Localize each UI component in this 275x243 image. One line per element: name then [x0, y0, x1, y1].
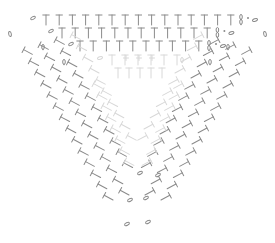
hdc-stitch-icon — [178, 159, 190, 169]
hdc-stitch-icon — [75, 109, 87, 119]
chain-stitch-icon — [97, 56, 103, 60]
hdc-stitch-icon — [22, 47, 34, 57]
hdc-stitch-icon — [181, 120, 193, 130]
hdc-stitch-icon — [143, 187, 155, 197]
chain-stitch-icon — [209, 59, 212, 64]
hdc-stitch-icon — [173, 65, 185, 75]
hdc-stitch-icon — [175, 15, 181, 25]
hdc-stitch-icon — [47, 92, 59, 102]
hdc-stitch-icon — [162, 154, 174, 164]
hdc-stitch-icon — [240, 47, 252, 57]
hdc-stitch-icon — [103, 41, 109, 51]
hdc-stitch-icon — [172, 170, 184, 180]
hdc-stitch-icon — [126, 133, 138, 143]
hdc-stitch-icon — [124, 158, 136, 168]
hdc-stitch-icon — [73, 70, 85, 80]
hdc-stitch-icon — [199, 87, 211, 97]
hdc-stitch-icon — [59, 114, 71, 124]
hdc-stitch-icon — [168, 92, 180, 102]
hdc-stitch-icon — [209, 103, 221, 113]
hdc-stitch-icon — [84, 159, 96, 169]
hdc-stitch-icon — [76, 43, 88, 53]
hdc-stitch-icon — [168, 143, 180, 153]
hdc-stitch-icon — [191, 28, 197, 38]
chain-stitch-icon — [145, 220, 151, 225]
hdc-stitch-icon — [143, 41, 149, 51]
chain-stitch-icon — [252, 18, 258, 22]
hdc-stitch-icon — [50, 64, 62, 74]
chain-stitch-icon — [137, 171, 143, 176]
hdc-stitch-icon — [113, 110, 125, 120]
hdc-stitch-icon — [90, 41, 96, 51]
hdc-stitch-icon — [125, 28, 131, 38]
single-crochet-icon — [137, 56, 142, 61]
hdc-stitch-icon — [65, 125, 77, 135]
hdc-stitch-icon — [148, 68, 154, 78]
hdc-stitch-icon — [60, 48, 72, 58]
hdc-stitch-icon — [162, 15, 168, 25]
chain-stitch-icon — [8, 31, 11, 37]
slip-stitch-icon — [247, 17, 249, 19]
hdc-stitch-icon — [166, 181, 178, 191]
hdc-stitch-icon — [116, 41, 122, 51]
hdc-stitch-icon — [66, 59, 78, 69]
chain-stitch-icon — [143, 196, 149, 201]
hdc-stitch-icon — [100, 154, 112, 164]
hdc-stitch-icon — [28, 58, 40, 68]
hdc-stitch-icon — [204, 28, 210, 38]
hdc-stitch-icon — [201, 15, 207, 25]
hdc-stitch-icon — [151, 28, 157, 38]
hdc-stitch-icon — [81, 120, 93, 130]
hdc-stitch-icon — [205, 75, 217, 85]
hdc-stitch-icon — [115, 68, 121, 78]
hdc-stitch-icon — [57, 75, 69, 85]
hdc-stitch-icon — [183, 82, 195, 92]
hdc-stitch-icon — [221, 80, 233, 90]
hdc-stitch-icon — [159, 192, 171, 202]
hdc-stitch-icon — [98, 28, 104, 38]
hdc-stitch-icon — [69, 15, 75, 25]
hdc-stitch-icon — [156, 41, 162, 51]
hdc-stitch-icon — [96, 181, 108, 191]
hdc-stitch-icon — [212, 64, 224, 74]
hdc-stitch-icon — [88, 131, 100, 141]
hdc-stitch-icon — [177, 93, 189, 103]
hdc-stitch-icon — [126, 68, 132, 78]
hdc-stitch-icon — [130, 41, 136, 51]
hdc-stitch-icon — [167, 77, 179, 87]
hdc-stitch-icon — [82, 15, 88, 25]
hdc-stitch-icon — [178, 28, 184, 38]
hdc-stitch-icon — [148, 55, 154, 65]
hdc-stitch-icon — [78, 148, 90, 158]
chain-stitch-icon — [220, 44, 226, 48]
hdc-stitch-icon — [155, 99, 167, 109]
slip-stitch-icon — [215, 43, 217, 45]
chain-stitch-icon — [127, 198, 133, 203]
chain-stitch-icon — [208, 45, 211, 50]
hdc-stitch-icon — [184, 148, 196, 158]
chain-stitch-icon — [124, 222, 130, 227]
chain-stitch-icon — [229, 31, 235, 35]
hdc-stitch-icon — [182, 41, 188, 51]
slip-stitch-icon — [223, 30, 225, 32]
crochet-chart — [0, 0, 275, 243]
chain-stitch-icon — [240, 19, 243, 24]
hdc-stitch-icon — [214, 15, 220, 25]
hdc-stitch-icon — [197, 125, 209, 135]
hdc-stitch-icon — [97, 92, 109, 102]
hdc-stitch-icon — [115, 136, 127, 146]
hdc-stitch-icon — [112, 28, 118, 38]
hdc-stitch-icon — [187, 109, 199, 119]
hdc-stitch-icon — [106, 165, 118, 175]
hdc-stitch-icon — [164, 28, 170, 38]
hdc-stitch-icon — [137, 68, 143, 78]
hdc-stitch-icon — [228, 69, 240, 79]
hdc-stitch-icon — [138, 28, 144, 38]
single-crochet-icon — [150, 56, 155, 61]
hdc-stitch-icon — [85, 28, 91, 38]
hdc-stitch-icon — [96, 15, 102, 25]
hdc-stitch-icon — [107, 99, 119, 109]
hdc-stitch-icon — [218, 53, 230, 63]
hdc-stitch-icon — [136, 133, 148, 143]
hdc-stitch-icon — [72, 136, 84, 146]
